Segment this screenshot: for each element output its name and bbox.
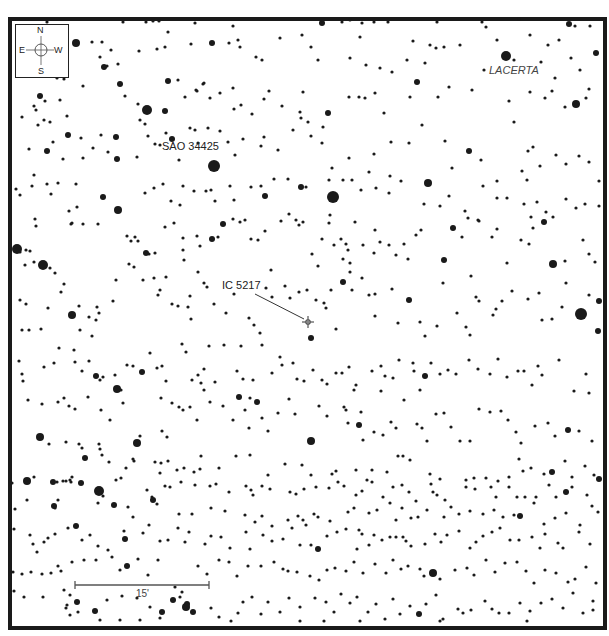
crosshair-icon — [16, 25, 68, 77]
star — [468, 546, 471, 549]
star — [547, 483, 550, 486]
star — [260, 416, 263, 419]
star — [515, 495, 518, 498]
star — [248, 547, 251, 550]
star — [143, 191, 146, 194]
star — [158, 616, 161, 619]
star — [321, 125, 324, 128]
star — [484, 25, 487, 28]
star — [232, 198, 235, 201]
star — [325, 110, 331, 116]
star — [394, 535, 397, 538]
star — [425, 439, 428, 442]
star — [51, 140, 54, 143]
star — [165, 435, 168, 438]
star — [348, 601, 351, 604]
star — [46, 536, 49, 539]
star — [231, 24, 234, 27]
star — [554, 495, 557, 498]
star — [327, 221, 330, 224]
star — [32, 173, 35, 176]
star — [385, 470, 388, 473]
star — [490, 235, 493, 238]
star — [12, 527, 15, 530]
star — [383, 617, 386, 620]
star — [259, 184, 262, 187]
star — [397, 358, 400, 361]
star — [62, 588, 65, 591]
star — [184, 350, 187, 353]
star — [37, 93, 43, 99]
star — [251, 378, 254, 381]
star — [517, 457, 520, 460]
star — [465, 566, 468, 569]
star — [166, 459, 169, 462]
star — [316, 58, 319, 61]
star — [391, 485, 394, 488]
star — [339, 237, 342, 240]
star — [320, 378, 323, 381]
star — [81, 222, 84, 225]
star — [67, 209, 70, 212]
star — [352, 560, 355, 563]
star — [114, 206, 122, 214]
star — [352, 388, 355, 391]
star — [438, 204, 441, 207]
star — [481, 184, 484, 187]
star — [472, 476, 475, 479]
star — [378, 240, 381, 243]
star — [549, 469, 555, 475]
star — [209, 506, 212, 509]
star — [361, 438, 364, 441]
star — [373, 314, 376, 317]
star — [67, 404, 70, 407]
star — [431, 490, 434, 493]
star — [587, 391, 590, 394]
star — [33, 217, 36, 220]
star — [105, 64, 108, 67]
star — [82, 558, 85, 561]
star — [319, 20, 325, 26]
star — [496, 479, 499, 482]
star — [540, 373, 543, 376]
star — [325, 534, 328, 537]
star — [186, 305, 189, 308]
star — [585, 493, 588, 496]
star — [59, 569, 62, 572]
star — [546, 421, 549, 424]
star — [72, 348, 75, 351]
star — [340, 279, 346, 285]
star — [133, 235, 136, 238]
star — [248, 396, 251, 399]
star — [495, 196, 498, 199]
star — [42, 540, 45, 543]
star — [517, 17, 520, 20]
star — [142, 105, 152, 115]
star — [301, 220, 304, 223]
star — [262, 97, 265, 100]
star — [132, 459, 135, 462]
star — [488, 410, 491, 413]
star — [573, 577, 576, 580]
star — [423, 334, 426, 337]
star — [68, 613, 71, 616]
star — [238, 220, 241, 223]
star — [270, 539, 273, 542]
star — [156, 293, 159, 296]
star — [64, 606, 67, 609]
star — [288, 296, 291, 299]
star — [458, 43, 461, 46]
star — [262, 193, 268, 199]
star — [560, 305, 563, 308]
star — [76, 610, 79, 613]
star — [391, 376, 394, 379]
star — [388, 501, 391, 504]
star — [442, 45, 445, 48]
star — [31, 542, 34, 545]
star — [438, 477, 441, 480]
star — [491, 313, 494, 316]
star — [408, 95, 411, 98]
star — [58, 98, 61, 101]
star — [296, 514, 299, 517]
star — [163, 45, 166, 48]
